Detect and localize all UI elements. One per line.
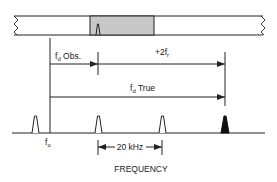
fd-true-label: fd True (130, 83, 155, 94)
doppler-ambiguity-diagram: fd Obs. +2fr fd True fo 20 kHz FREQUENCY (0, 0, 277, 182)
spectral-line-3 (159, 116, 166, 133)
plus-2fr-label: +2fr (155, 47, 169, 58)
spectral-line-2-observed (95, 116, 102, 133)
spacing-label: 20 kHz (117, 142, 143, 152)
spectral-line-4-true (221, 116, 229, 133)
break-mark-right-icon (261, 16, 265, 35)
spectral-line-1 (32, 116, 39, 133)
fd-obs-label: fd Obs. (55, 51, 81, 62)
spacing-dimension: 20 kHz (98, 140, 162, 155)
f0-label: fo (45, 137, 51, 148)
frequency-axis-label: FREQUENCY (114, 164, 168, 174)
break-mark-left-icon (14, 16, 18, 35)
filter-bank-strip (14, 16, 265, 35)
